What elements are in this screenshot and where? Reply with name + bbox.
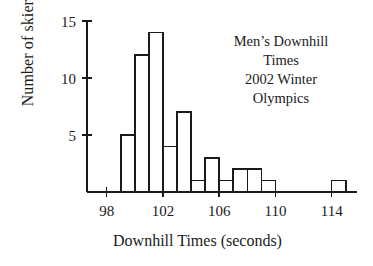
y-tick-label: 10 bbox=[61, 71, 76, 87]
histogram-bar bbox=[219, 181, 233, 192]
x-tick-label: 114 bbox=[321, 203, 343, 219]
histogram-bar bbox=[163, 146, 177, 192]
histogram-bar bbox=[149, 32, 163, 192]
histogram-bar bbox=[205, 158, 219, 192]
y-axis-label: Number of skiers bbox=[16, 0, 40, 130]
histogram-figure: 98102106110114 51015 Number of skiers Do… bbox=[0, 0, 373, 266]
annotation-line-4: Olympics bbox=[206, 89, 356, 108]
y-tick-label: 15 bbox=[61, 14, 76, 30]
histogram-bar bbox=[332, 181, 346, 192]
histogram-bar bbox=[191, 181, 205, 192]
histogram-bar bbox=[233, 169, 247, 192]
y-axis-label-text: Number of skiers bbox=[19, 0, 37, 106]
x-tick-label: 98 bbox=[99, 203, 114, 219]
annotation-line-3: 2002 Winter bbox=[206, 70, 356, 89]
annotation-line-2: Times bbox=[206, 51, 356, 70]
x-tick-label: 102 bbox=[152, 203, 175, 219]
histogram-bar bbox=[247, 169, 261, 192]
histogram-bar bbox=[135, 55, 149, 192]
annotation-line-1: Men’s Downhill bbox=[206, 32, 356, 51]
x-axis-label: Downhill Times (seconds) bbox=[0, 232, 373, 250]
histogram-bar bbox=[121, 135, 135, 192]
chart-annotation: Men’s Downhill Times 2002 Winter Olympic… bbox=[206, 32, 356, 109]
x-tick-label: 106 bbox=[208, 203, 231, 219]
x-axis-label-text: Downhill Times (seconds) bbox=[113, 232, 282, 250]
y-tick-label: 5 bbox=[69, 128, 77, 144]
x-tick-label: 110 bbox=[264, 203, 286, 219]
histogram-bar bbox=[261, 181, 275, 192]
histogram-bar bbox=[177, 112, 191, 192]
